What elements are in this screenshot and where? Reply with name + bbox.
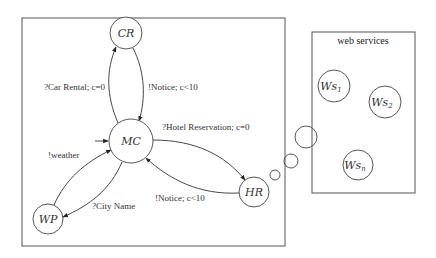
state-node-cr: CR (110, 17, 142, 49)
state-label-wp: WP (39, 213, 58, 226)
edge-cr-to-mc (133, 48, 143, 121)
edge-hr-to-mc (146, 158, 239, 193)
thought-bubble-medium (284, 154, 298, 168)
state-label-hr: HR (244, 186, 263, 199)
state-node-mc: MC (109, 119, 153, 163)
edge-label-car-rental: ?Car Rental; c=0 (44, 82, 106, 92)
web-services-title: web services (337, 35, 388, 46)
edge-label-notice-cr: !Notice; c<10 (148, 82, 198, 92)
edge-mc-to-cr (109, 47, 118, 123)
edge-label-notice-hr: !Notice; c<10 (155, 193, 205, 203)
edge-label-weather: !weather (48, 150, 79, 160)
state-node-wp: WP (33, 204, 63, 234)
service-node-ws1: Ws1 (318, 70, 350, 102)
diagram-canvas: web services ?Car Rental; c=0 !Notice; c… (0, 0, 436, 258)
state-label-cr: CR (118, 27, 135, 40)
state-node-hr: HR (239, 177, 269, 207)
thought-bubble-small (270, 170, 280, 180)
service-node-ws2: Ws2 (369, 86, 401, 118)
service-node-wsn: Wsn (343, 150, 373, 180)
edge-label-city-name: ?City Name (92, 201, 135, 211)
edge-label-hotel-reservation: ?Hotel Reservation; c=0 (162, 122, 250, 132)
thought-bubble-large (295, 126, 317, 148)
state-label-mc: MC (120, 135, 141, 148)
